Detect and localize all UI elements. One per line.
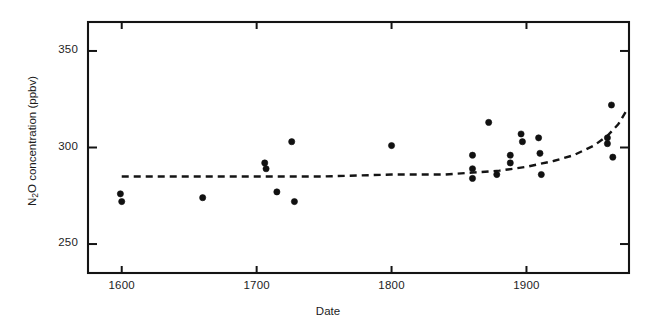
y-axis-title-subscript: 2	[30, 193, 40, 198]
plot-frame	[88, 22, 629, 273]
x-tick-label: 1700	[227, 279, 287, 291]
y-axis-title-pre: N	[26, 198, 38, 206]
y-tick-label: 300	[32, 140, 78, 152]
figure-n2o-concentration-vs-date: 250300350 1600170018001900 N2O concentra…	[0, 0, 656, 330]
y-axis-title: N2O concentration (ppbv)	[26, 46, 38, 236]
y-tick-label: 350	[32, 43, 78, 55]
y-axis-title-post: O concentration (ppbv)	[26, 76, 38, 193]
y-tick-label: 250	[32, 236, 78, 248]
trend-line-dashed	[122, 111, 627, 177]
x-tick-label: 1800	[362, 279, 422, 291]
axis-ticks	[88, 22, 629, 273]
x-tick-label: 1900	[496, 279, 556, 291]
data-point-markers	[117, 102, 616, 205]
x-axis-title: Date	[0, 305, 656, 317]
x-tick-label: 1600	[92, 279, 152, 291]
